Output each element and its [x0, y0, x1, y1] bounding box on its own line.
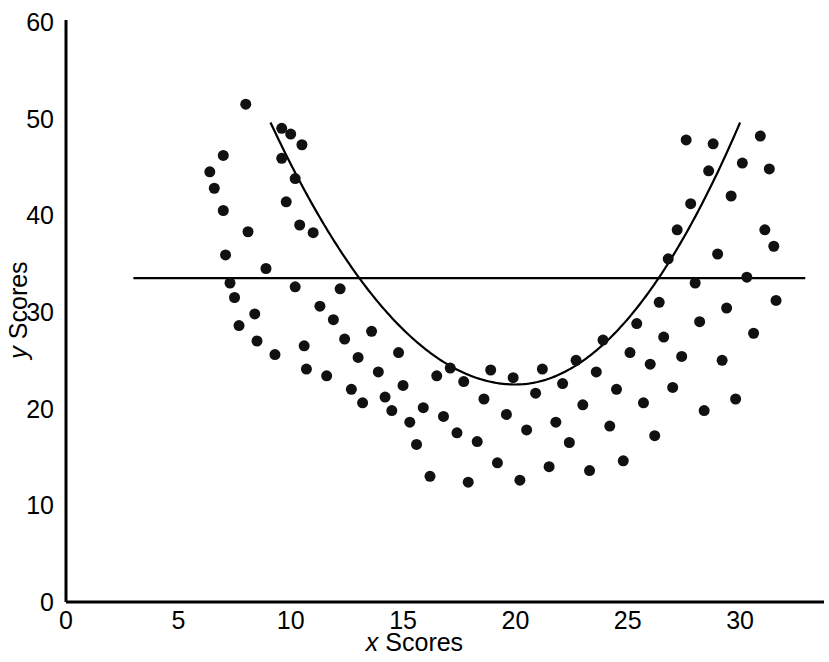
data-point [260, 263, 271, 274]
data-point [229, 292, 240, 303]
data-point [431, 370, 442, 381]
y-tick-label-60: 60 [0, 9, 54, 34]
data-point [380, 392, 391, 403]
y-tick-label-50: 50 [0, 106, 54, 131]
data-point [645, 359, 656, 370]
data-point [418, 402, 429, 413]
data-point [463, 477, 474, 488]
data-point [373, 366, 384, 377]
data-point [411, 439, 422, 450]
data-point [321, 370, 332, 381]
data-point [537, 364, 548, 375]
data-point [672, 224, 683, 235]
data-point [209, 183, 220, 194]
y-axis-title-variable: y [4, 346, 32, 359]
y-tick-label-10: 10 [0, 493, 54, 518]
data-point [768, 241, 779, 252]
data-point [577, 399, 588, 410]
data-point [404, 417, 415, 428]
data-point [290, 281, 301, 292]
data-point [667, 382, 678, 393]
data-point [712, 248, 723, 259]
data-point [618, 455, 629, 466]
y-axis-title: y Scores [6, 190, 31, 430]
data-point [276, 153, 287, 164]
data-point [730, 393, 741, 404]
data-points-group [204, 99, 781, 488]
x-axis-title-variable: x [366, 628, 379, 656]
data-point [703, 165, 714, 176]
data-point [530, 388, 541, 399]
data-point [296, 139, 307, 150]
plot-canvas [0, 0, 829, 662]
data-point [225, 277, 236, 288]
data-point [737, 158, 748, 169]
data-point [335, 283, 346, 294]
data-point [346, 384, 357, 395]
data-point [771, 295, 782, 306]
axes-group [66, 20, 824, 602]
data-point [243, 226, 254, 237]
data-point [458, 376, 469, 387]
annotations-group [133, 123, 805, 385]
data-point [366, 326, 377, 337]
data-point [726, 190, 737, 201]
data-point [353, 352, 364, 363]
data-point [676, 351, 687, 362]
data-point [550, 417, 561, 428]
x-axis-title: x Scores [0, 630, 829, 655]
data-point [557, 378, 568, 389]
data-point [438, 411, 449, 422]
data-point [339, 334, 350, 345]
data-point [584, 465, 595, 476]
data-point [294, 219, 305, 230]
data-point [478, 393, 489, 404]
data-point [328, 314, 339, 325]
data-point [681, 134, 692, 145]
data-point [220, 249, 231, 260]
y-tick-label-0: 0 [0, 590, 54, 615]
data-point [544, 461, 555, 472]
data-point [514, 475, 525, 486]
data-point [451, 427, 462, 438]
scatter-plot-figure: 0102030405060 051015202530 x Scores y Sc… [0, 0, 829, 662]
data-point [492, 457, 503, 468]
data-point [764, 163, 775, 174]
data-point [218, 150, 229, 161]
data-point [314, 301, 325, 312]
data-point [654, 297, 665, 308]
data-point [598, 335, 609, 346]
data-point [308, 227, 319, 238]
data-point [755, 131, 766, 142]
data-point [759, 224, 770, 235]
data-point [290, 173, 301, 184]
data-point [285, 129, 296, 140]
data-point [508, 372, 519, 383]
data-point [472, 436, 483, 447]
data-point [521, 424, 532, 435]
data-point [694, 316, 705, 327]
data-point [741, 272, 752, 283]
data-point [398, 380, 409, 391]
data-point [357, 397, 368, 408]
data-point [685, 198, 696, 209]
data-point [501, 409, 512, 420]
data-point [611, 384, 622, 395]
data-point [649, 430, 660, 441]
data-point [591, 366, 602, 377]
data-point [204, 166, 215, 177]
data-point [663, 253, 674, 264]
data-point [393, 347, 404, 358]
data-point [604, 421, 615, 432]
data-point [638, 397, 649, 408]
y-axis-title-text: Scores [4, 261, 32, 346]
data-point [699, 405, 710, 416]
data-point [281, 196, 292, 207]
data-point [564, 437, 575, 448]
data-point [708, 138, 719, 149]
data-point [625, 347, 636, 358]
data-point [386, 405, 397, 416]
data-point [234, 320, 245, 331]
data-point [721, 303, 732, 314]
data-point [252, 335, 263, 346]
